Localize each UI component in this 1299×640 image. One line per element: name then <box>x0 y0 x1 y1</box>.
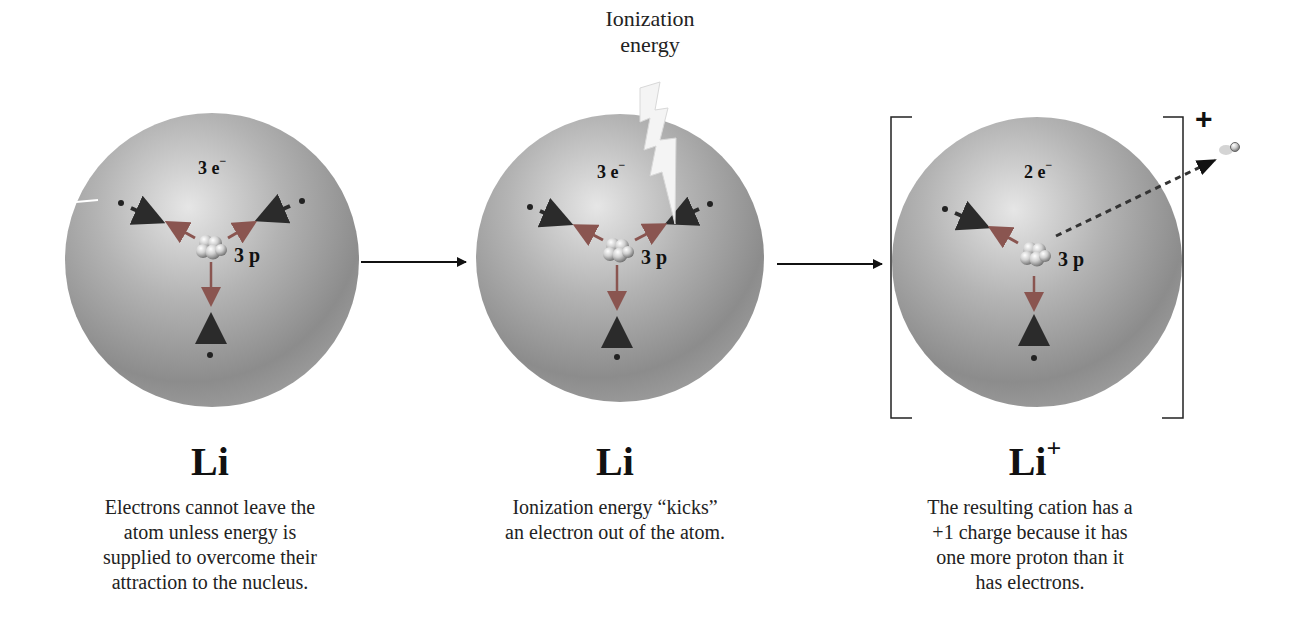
ejected-electron <box>1219 143 1240 156</box>
caption-cation: The resulting cation has a +1 charge bec… <box>880 495 1180 595</box>
proton-count-label: 3 p <box>1058 248 1084 271</box>
ionization-label-line-2: energy <box>560 32 740 58</box>
caption-neutral-atom: Electrons cannot leave the atom unless e… <box>40 495 380 595</box>
bracket-charge-plus: + <box>1195 102 1213 136</box>
electron-count-label: 3 e− <box>198 156 226 179</box>
element-symbol: Li <box>515 438 715 485</box>
ionization-label-line-1: Ionization <box>560 6 740 32</box>
electron-count-label: 3 e− <box>597 160 625 183</box>
proton-count-label: 3 p <box>641 246 667 269</box>
element-symbol: Li+ <box>935 438 1135 485</box>
atom-ionizing-li <box>476 82 764 402</box>
proton-count-label: 3 p <box>234 244 260 267</box>
electron-count-label: 2 e− <box>1024 160 1052 183</box>
element-symbol: Li <box>110 438 310 485</box>
ionization-energy-label: Ionization energy <box>560 6 740 58</box>
caption-ionizing-atom: Ionization energy “kicks” an electron ou… <box>455 495 775 545</box>
